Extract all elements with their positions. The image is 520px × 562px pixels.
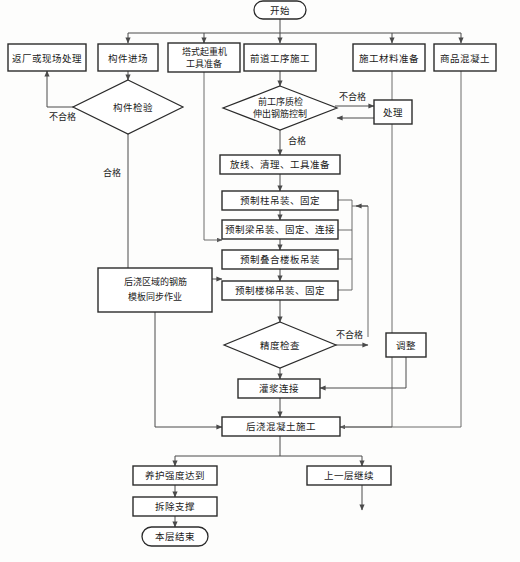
node-accuracy-check-label: 精度检查 — [260, 340, 300, 351]
node-rebar-formwork[interactable]: 后浇区域的钢筋 模板同步作业 — [98, 268, 212, 312]
node-start-label: 开始 — [270, 5, 290, 16]
node-layer-end[interactable]: 本层结束 — [142, 527, 208, 546]
node-precast-slab[interactable]: 预制叠合楼板吊装 — [222, 250, 338, 269]
node-accuracy-check[interactable]: 精度检查 — [224, 322, 336, 368]
node-remove-support-label: 拆除支撑 — [155, 501, 195, 512]
edge-adjust-grout — [320, 357, 406, 388]
node-grout-connect-label: 灌浆连接 — [259, 383, 299, 394]
node-precast-column[interactable]: 预制柱吊装、固定 — [222, 191, 338, 210]
node-layout-clean-tools[interactable]: 放线、清理、工具准备 — [220, 155, 340, 174]
node-return-factory-label: 返厂或现场处理 — [12, 53, 82, 64]
node-quality-check[interactable]: 前工序质检 伸出钢筋控制 — [223, 86, 337, 130]
node-layer-end-label: 本层结束 — [155, 531, 195, 542]
node-component-inspect[interactable]: 构件检验 — [73, 80, 183, 134]
edge-label-pass-component: 合格 — [103, 167, 121, 178]
node-handle[interactable]: 处理 — [374, 100, 412, 124]
node-precast-stair-label: 预制楼梯吊装、固定 — [235, 285, 325, 296]
node-curing-strength[interactable]: 养护强度达到 — [133, 466, 217, 485]
node-adjust-label: 调整 — [396, 340, 416, 351]
node-component-inspect-label: 构件检验 — [113, 102, 153, 113]
edge-inspect-pass-process — [128, 134, 222, 279]
node-quality-check-line1: 前工序质检 — [258, 96, 303, 107]
node-rebar-formwork-line1: 后浇区域的钢筋 — [124, 276, 187, 287]
node-prev-process[interactable]: 前道工序施工 — [244, 44, 316, 71]
node-post-cast-concrete[interactable]: 后浇混凝土施工 — [222, 417, 340, 436]
node-rebar-formwork-line2: 模板同步作业 — [128, 291, 182, 302]
edge-rebar-postcast — [155, 312, 222, 427]
node-tower-crane[interactable]: 塔式起重机 工具准备 — [168, 43, 240, 72]
node-prev-process-label: 前道工序施工 — [250, 53, 310, 64]
node-adjust[interactable]: 调整 — [386, 333, 426, 357]
node-tower-crane-line1: 塔式起重机 — [182, 46, 227, 57]
node-component-arrival-label: 构件进场 — [108, 53, 148, 64]
node-component-arrival[interactable]: 构件进场 — [98, 44, 158, 71]
node-precast-beam[interactable]: 预制梁吊装、固定、连接 — [222, 220, 338, 239]
node-remove-support[interactable]: 拆除支撑 — [133, 497, 217, 516]
edge-column-right — [338, 200, 352, 206]
node-next-layer[interactable]: 上一层继续 — [307, 466, 391, 485]
node-post-cast-concrete-label: 后浇混凝土施工 — [246, 421, 316, 432]
node-layout-clean-tools-label: 放线、清理、工具准备 — [230, 159, 330, 170]
node-precast-beam-label: 预制梁吊装、固定、连接 — [225, 224, 335, 235]
node-return-factory[interactable]: 返厂或现场处理 — [8, 44, 86, 71]
node-precast-stair[interactable]: 预制楼梯吊装、固定 — [222, 281, 338, 300]
edge-label-fail-component: 不合格 — [49, 111, 76, 122]
node-next-layer-label: 上一层继续 — [324, 470, 374, 481]
node-tower-crane-line2: 工具准备 — [186, 58, 222, 69]
node-grout-connect[interactable]: 灌浆连接 — [238, 379, 320, 398]
edge-stair-right — [338, 206, 352, 290]
edge-adjust-return-up — [352, 206, 368, 337]
node-ready-concrete-label: 商品混凝土 — [440, 53, 490, 64]
node-start[interactable]: 开始 — [254, 1, 306, 19]
flowchart-page: 开始 返厂或现场处理 构件进场 塔式起重机 工具准备 前道工序施工 施工材料准备… — [0, 0, 520, 562]
edge-label-pass-quality: 合格 — [288, 135, 306, 146]
edge-label-fail-accuracy: 不合格 — [336, 329, 363, 340]
node-quality-check-line2: 伸出钢筋控制 — [253, 108, 307, 119]
node-material-prep-label: 施工材料准备 — [359, 53, 419, 64]
flowchart-svg: 开始 返厂或现场处理 构件进场 塔式起重机 工具准备 前道工序施工 施工材料准备… — [0, 0, 520, 562]
node-material-prep[interactable]: 施工材料准备 — [353, 44, 425, 71]
node-handle-label: 处理 — [383, 107, 403, 118]
node-precast-column-label: 预制柱吊装、固定 — [240, 195, 320, 206]
edge-label-fail-quality: 不合格 — [339, 91, 366, 102]
node-precast-slab-label: 预制叠合楼板吊装 — [240, 254, 320, 265]
node-curing-strength-label: 养护强度达到 — [145, 470, 205, 481]
node-ready-concrete[interactable]: 商品混凝土 — [434, 44, 496, 71]
